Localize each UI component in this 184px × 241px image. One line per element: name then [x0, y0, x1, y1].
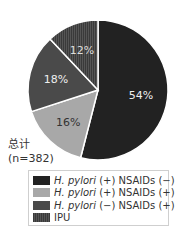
legend-item-hp-pos-nsaid-pos: H. pylori (+) NSAIDs (+)	[33, 187, 168, 200]
slice-value-label: 54%	[129, 89, 153, 102]
legend-text: (−) NSAIDs (+)	[99, 200, 174, 211]
legend-italic: H. pylori	[54, 200, 96, 211]
total-n: (n=382)	[8, 152, 54, 166]
slice-value-label: 12%	[70, 44, 94, 57]
legend-swatch	[33, 188, 50, 197]
legend-swatch	[33, 213, 50, 222]
legend-italic: H. pylori	[54, 175, 96, 186]
legend-item-hp-pos-nsaid-neg: H. pylori (+) NSAIDs (−)	[33, 174, 168, 187]
legend-swatch	[33, 176, 50, 185]
total-label: 总计 (n=382)	[8, 138, 54, 166]
total-text: 总计	[8, 138, 30, 151]
slice-value-label: 16%	[56, 116, 80, 129]
slice-value-label: 18%	[44, 73, 68, 86]
legend-text: IPU	[54, 212, 70, 223]
legend-text: (+) NSAIDs (+)	[99, 187, 174, 198]
legend: H. pylori (+) NSAIDs (−) H. pylori (+) N…	[28, 170, 169, 226]
legend-italic: H. pylori	[54, 187, 96, 198]
legend-item-hp-neg-nsaid-pos: H. pylori (−) NSAIDs (+)	[33, 199, 168, 212]
legend-text: (+) NSAIDs (−)	[99, 175, 174, 186]
legend-item-ipu: IPU	[33, 212, 168, 225]
legend-swatch	[33, 201, 50, 210]
